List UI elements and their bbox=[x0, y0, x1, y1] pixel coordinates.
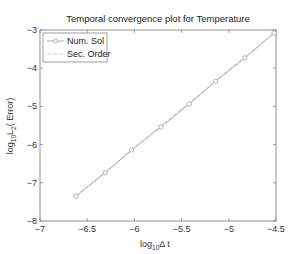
circle-marker-icon bbox=[54, 39, 58, 43]
chart-title: Temporal convergence plot for Temperatur… bbox=[66, 13, 250, 24]
x-tick-label: −5 bbox=[224, 224, 234, 234]
x-tick-label: −5.5 bbox=[173, 224, 191, 234]
y-tick-label: −8 bbox=[27, 216, 37, 226]
y-tick-label: −4 bbox=[27, 63, 37, 73]
x-tick-label: −6 bbox=[129, 224, 139, 234]
convergence-chart: Temporal convergence plot for Temperatur… bbox=[0, 0, 296, 254]
x-tick-label: −6.5 bbox=[78, 224, 96, 234]
data-point-marker bbox=[159, 125, 163, 129]
data-point-marker bbox=[243, 56, 247, 60]
y-axis-label: log10L2( Error) bbox=[5, 98, 17, 154]
data-point-marker bbox=[213, 79, 217, 83]
x-tick-label: −4.5 bbox=[267, 224, 285, 234]
data-point-marker bbox=[74, 194, 78, 198]
legend: Num. Sol Sec. Order bbox=[43, 33, 111, 62]
data-point-marker bbox=[272, 31, 276, 35]
legend-num-sol: Num. Sol bbox=[67, 36, 104, 46]
y-tick-label: −6 bbox=[27, 140, 37, 150]
x-axis-label: log10Δ t bbox=[140, 239, 170, 251]
y-tick-label: −7 bbox=[27, 178, 37, 188]
y-tick-label: −3 bbox=[27, 25, 37, 35]
data-point-marker bbox=[129, 148, 133, 152]
data-point-marker bbox=[187, 102, 191, 106]
data-point-marker bbox=[103, 171, 107, 175]
y-tick-label: −5 bbox=[27, 101, 37, 111]
legend-sec-order: Sec. Order bbox=[67, 49, 111, 59]
